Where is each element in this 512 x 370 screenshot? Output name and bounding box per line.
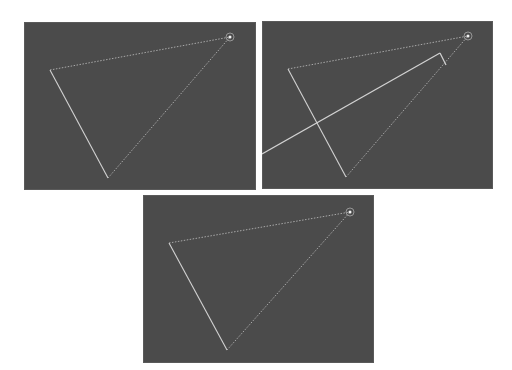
triangle-edge <box>346 36 468 177</box>
panel-2 <box>262 21 493 189</box>
triangle-edge <box>108 37 230 178</box>
light-source-icon <box>464 32 472 40</box>
triangle-edge <box>50 70 108 178</box>
ray-line <box>262 53 440 154</box>
triangle-edge <box>227 212 350 350</box>
triangle-diagram <box>24 22 256 190</box>
panel-1 <box>24 22 256 190</box>
panel-3 <box>143 195 374 363</box>
triangle-edge <box>169 212 350 243</box>
triangle-edge <box>288 36 468 69</box>
ray-line <box>440 53 446 65</box>
light-source-icon <box>226 33 234 41</box>
triangle-diagram <box>143 195 374 363</box>
triangle-edge <box>50 37 230 70</box>
triangle-diagram <box>262 21 493 189</box>
triangle-edge <box>169 243 227 350</box>
